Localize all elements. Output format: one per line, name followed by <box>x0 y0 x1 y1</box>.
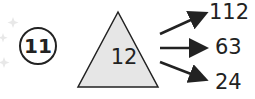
arrow-down-icon <box>160 62 204 79</box>
output-value-top: 112 <box>209 0 249 24</box>
output-value-middle: 63 <box>215 35 242 59</box>
output-value-bottom: 24 <box>215 70 242 94</box>
arrow-up-icon <box>160 14 204 34</box>
